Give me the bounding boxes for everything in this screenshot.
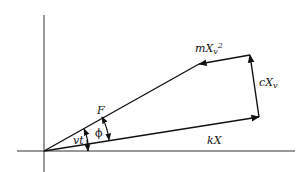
label-phi: ϕ (95, 127, 103, 140)
label-cXv-main: cX (259, 76, 274, 89)
label-mXv2: mXv2 (195, 41, 223, 56)
vector-cXv (250, 55, 259, 117)
vector-mXv2 (199, 55, 250, 64)
label-cXv-sub: v (273, 81, 278, 90)
label-vt: vt (73, 134, 84, 147)
label-mXv2-main: mX (195, 42, 214, 55)
force-vector-diagram: F mXv2 cXv kX vt ϕ (0, 0, 307, 172)
angle-arc-phi (102, 117, 109, 140)
vector-F (44, 64, 199, 151)
label-cXv: cXv (259, 76, 278, 90)
label-mXv2-sup: 2 (217, 41, 223, 50)
label-kX: kX (207, 134, 223, 147)
label-F: F (96, 104, 105, 117)
